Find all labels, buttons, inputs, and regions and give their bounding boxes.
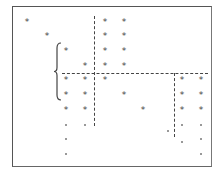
left-brace-icon (0, 0, 223, 180)
